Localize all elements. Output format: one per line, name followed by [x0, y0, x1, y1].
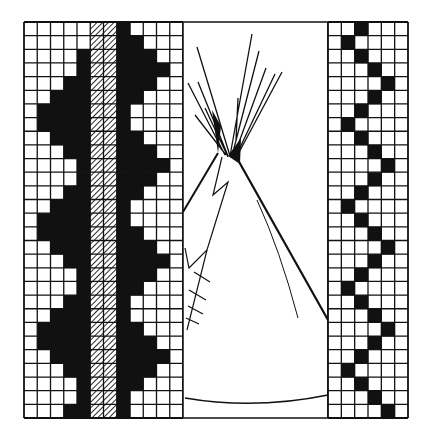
bead-cell: [117, 268, 131, 282]
bead-cell: [341, 36, 355, 50]
bead-cell: [130, 186, 144, 200]
bead-cell: [77, 254, 91, 268]
hatched-bead-cell: [90, 350, 104, 364]
bead-cell: [117, 404, 131, 418]
bead-cell: [77, 268, 91, 282]
hatched-bead-cell: [90, 22, 104, 36]
bead-cell: [51, 131, 65, 145]
bead-cell: [117, 213, 131, 227]
hatched-bead-cell: [90, 240, 104, 254]
bead-cell: [143, 77, 157, 91]
bead-cell: [64, 322, 78, 336]
hatched-bead-cell: [104, 90, 118, 104]
bead-cell: [368, 309, 382, 323]
bead-cell: [130, 172, 144, 186]
bead-cell: [64, 186, 78, 200]
bead-cell: [64, 350, 78, 364]
bead-cell: [64, 118, 78, 132]
bead-cell: [143, 63, 157, 77]
bead-cell: [64, 254, 78, 268]
hatched-bead-cell: [104, 404, 118, 418]
hatched-bead-cell: [104, 240, 118, 254]
bead-cell: [77, 63, 91, 77]
bead-cell: [157, 159, 171, 173]
bead-cell: [77, 377, 91, 391]
bead-cell: [77, 391, 91, 405]
bead-cell: [51, 104, 65, 118]
bead-cell: [381, 322, 395, 336]
hatched-bead-cell: [104, 295, 118, 309]
bead-cell: [64, 404, 78, 418]
bead-cell: [51, 227, 65, 241]
hatched-bead-cell: [104, 227, 118, 241]
bead-cell: [64, 104, 78, 118]
bead-cell: [355, 104, 369, 118]
tipi-illustration: [183, 22, 328, 418]
bead-cell: [77, 309, 91, 323]
bead-cell: [64, 90, 78, 104]
bead-cell: [130, 363, 144, 377]
hatched-bead-cell: [104, 254, 118, 268]
bead-cell: [117, 391, 131, 405]
bead-cell: [51, 213, 65, 227]
bead-cell: [157, 63, 171, 77]
bead-cell: [77, 213, 91, 227]
hatched-bead-cell: [104, 281, 118, 295]
bead-cell: [117, 281, 131, 295]
hatched-bead-cell: [90, 213, 104, 227]
bead-cell: [64, 131, 78, 145]
bead-cell: [51, 118, 65, 132]
bead-cell: [117, 22, 131, 36]
bead-cell: [143, 145, 157, 159]
bead-cell: [77, 295, 91, 309]
hatched-bead-cell: [90, 363, 104, 377]
bead-cell: [130, 159, 144, 173]
bead-cell: [355, 186, 369, 200]
bead-cell: [117, 350, 131, 364]
hatched-bead-cell: [90, 63, 104, 77]
bead-cell: [37, 336, 51, 350]
bead-cell: [77, 240, 91, 254]
bead-cell: [64, 240, 78, 254]
bead-cell: [368, 63, 382, 77]
hatched-bead-cell: [90, 186, 104, 200]
bead-cell: [117, 336, 131, 350]
hatched-bead-cell: [104, 36, 118, 50]
hatched-bead-cell: [90, 159, 104, 173]
bead-cell: [51, 200, 65, 214]
bead-cell: [117, 63, 131, 77]
hatched-bead-cell: [90, 336, 104, 350]
hatched-bead-cell: [90, 104, 104, 118]
bead-cell: [130, 350, 144, 364]
hatched-bead-cell: [90, 309, 104, 323]
hatched-bead-cell: [104, 336, 118, 350]
bead-cell: [341, 118, 355, 132]
bead-cell: [355, 377, 369, 391]
bead-cell: [117, 77, 131, 91]
bead-cell: [51, 90, 65, 104]
hatched-bead-cell: [90, 254, 104, 268]
bead-cell: [117, 227, 131, 241]
right-beadwork-grid: [328, 22, 408, 418]
bead-cell: [77, 186, 91, 200]
bead-cell: [64, 295, 78, 309]
hatched-bead-cell: [104, 63, 118, 77]
bead-cell: [130, 63, 144, 77]
bead-cell: [368, 172, 382, 186]
hatched-bead-cell: [90, 49, 104, 63]
bead-cell: [117, 159, 131, 173]
hatched-bead-cell: [90, 227, 104, 241]
hatched-bead-cell: [104, 350, 118, 364]
bead-cell: [368, 336, 382, 350]
bead-cell: [37, 227, 51, 241]
bead-cell: [77, 281, 91, 295]
bead-cell: [64, 200, 78, 214]
bead-cell: [51, 309, 65, 323]
hatched-bead-cell: [104, 159, 118, 173]
bead-cell: [64, 336, 78, 350]
bead-cell: [117, 377, 131, 391]
bead-cell: [77, 322, 91, 336]
hatched-bead-cell: [104, 268, 118, 282]
bead-cell: [130, 336, 144, 350]
bead-cell: [130, 49, 144, 63]
